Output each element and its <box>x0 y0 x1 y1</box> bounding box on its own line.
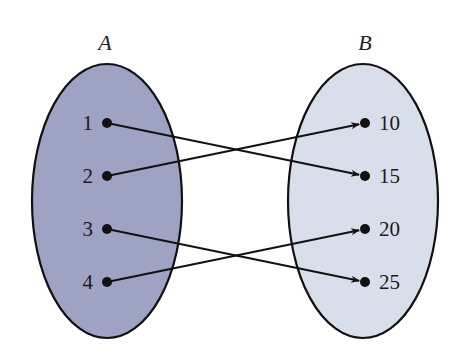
element-3-label: 3 <box>83 217 94 241</box>
element-25-dot-icon <box>360 277 370 287</box>
element-2-dot-icon <box>102 171 112 181</box>
element-1-dot-icon <box>102 118 112 128</box>
element-10-dot-icon <box>360 118 370 128</box>
element-1-label: 1 <box>83 111 94 135</box>
element-3-dot-icon <box>102 224 112 234</box>
element-20-dot-icon <box>360 224 370 234</box>
element-25-label: 25 <box>379 270 400 294</box>
element-15-dot-icon <box>360 171 370 181</box>
element-20-label: 20 <box>379 217 400 241</box>
element-4-dot-icon <box>102 277 112 287</box>
set-b-ellipse <box>288 64 438 338</box>
set-a-label: A <box>96 30 112 55</box>
mapping-diagram: AB 123410152025 <box>0 0 457 355</box>
element-15-label: 15 <box>379 164 400 188</box>
set-b-label: B <box>358 30 371 55</box>
element-10-label: 10 <box>379 111 400 135</box>
diagram-canvas: AB 123410152025 <box>0 0 457 355</box>
element-2-label: 2 <box>83 164 94 188</box>
element-4-label: 4 <box>83 270 94 294</box>
set-a-ellipse <box>32 64 182 338</box>
